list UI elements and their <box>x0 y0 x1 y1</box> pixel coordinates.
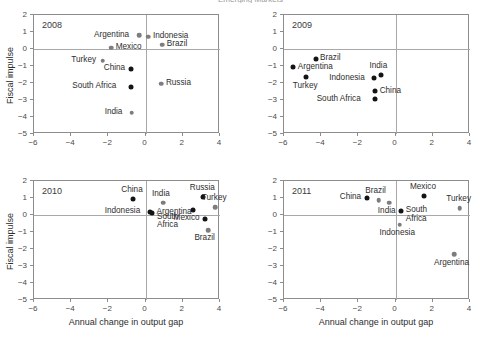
y-tick <box>280 48 283 49</box>
panel-2010: ChinaIndiaRussiaTurkeyIndonesiaArgentina… <box>33 180 219 299</box>
x-tick-label: −6 <box>278 138 287 147</box>
data-point-russia[interactable] <box>159 82 164 87</box>
point-label-india: India <box>378 207 396 216</box>
data-point-indonesia[interactable] <box>146 34 151 39</box>
panel-year-label: 2011 <box>292 186 311 196</box>
x-tick-label: −6 <box>28 138 37 147</box>
data-point-argentina[interactable] <box>291 65 296 70</box>
point-label-turkey: Turkey <box>293 82 318 91</box>
y-tick <box>280 99 283 100</box>
data-point-brazil[interactable] <box>206 228 211 233</box>
x-tick-label: 4 <box>217 138 221 147</box>
y-tick-label: −1 <box>259 61 277 70</box>
data-point-brazil[interactable] <box>160 42 165 47</box>
data-point-china[interactable] <box>364 195 369 200</box>
panel-2011: ChinaBrazilIndiaMexicoTurkeySouth Africa… <box>283 180 469 299</box>
x-tick <box>395 299 396 302</box>
vertical-zero-line <box>146 181 147 300</box>
data-point-turkey[interactable] <box>213 205 218 210</box>
point-label-india: India <box>152 190 170 199</box>
y-tick <box>30 265 33 266</box>
data-point-brazil[interactable] <box>313 56 318 61</box>
point-label-china: China <box>380 87 401 96</box>
point-label-turkey: Turkey <box>446 195 471 204</box>
x-tick-label: −4 <box>316 138 325 147</box>
data-point-india[interactable] <box>129 110 134 115</box>
point-label-brazil: Brazil <box>365 187 385 196</box>
y-tick <box>280 180 283 181</box>
point-label-mexico: Mexico <box>410 183 436 192</box>
data-point-india[interactable] <box>161 200 166 205</box>
y-tick <box>280 116 283 117</box>
y-tick-label: −2 <box>259 244 277 253</box>
y-tick <box>30 82 33 83</box>
x-tick <box>395 133 396 136</box>
x-tick-label: −4 <box>316 304 325 313</box>
data-point-china[interactable] <box>130 196 135 201</box>
y-tick <box>280 197 283 198</box>
data-point-china[interactable] <box>128 67 133 72</box>
point-label-china: China <box>340 193 361 202</box>
panel-year-label: 2008 <box>42 20 62 30</box>
point-label-indonesia: Indonesia <box>379 229 415 238</box>
y-tick <box>30 116 33 117</box>
x-tick-label: 2 <box>430 304 434 313</box>
x-tick-label: −6 <box>278 304 287 313</box>
y-tick <box>280 14 283 15</box>
point-label-china: China <box>121 186 142 195</box>
y-tick <box>30 231 33 232</box>
y-tick <box>280 82 283 83</box>
y-axis-title: Fiscal impulse <box>5 212 15 269</box>
vertical-zero-line <box>396 181 397 300</box>
y-tick-label: −2 <box>259 78 277 87</box>
data-point-mexico[interactable] <box>421 194 426 199</box>
x-tick <box>357 133 358 136</box>
point-label-brazil: Brazil <box>194 234 214 243</box>
data-point-brazil[interactable] <box>377 198 382 203</box>
data-point-mexico[interactable] <box>203 216 208 221</box>
x-tick <box>70 299 71 302</box>
y-tick <box>280 248 283 249</box>
vertical-zero-line <box>146 15 147 134</box>
data-point-argentina[interactable] <box>452 252 457 257</box>
data-point-mexico[interactable] <box>109 45 114 50</box>
x-tick-label: −6 <box>28 304 37 313</box>
y-tick <box>30 248 33 249</box>
y-tick <box>30 214 33 215</box>
data-point-indonesia[interactable] <box>397 223 402 228</box>
x-tick <box>33 133 34 136</box>
y-tick <box>30 31 33 32</box>
point-label-india: India <box>105 108 123 117</box>
data-point-indonesia[interactable] <box>372 76 377 81</box>
y-tick-label: −5 <box>259 129 277 138</box>
point-label-mexico: Mexico <box>116 43 142 52</box>
data-point-argentina[interactable] <box>150 210 155 215</box>
data-point-turkey[interactable] <box>304 75 309 80</box>
y-tick-label: −5 <box>9 129 27 138</box>
y-tick-label: −3 <box>259 95 277 104</box>
x-tick <box>182 133 183 136</box>
x-tick <box>469 133 470 136</box>
x-tick <box>219 299 220 302</box>
y-tick <box>30 180 33 181</box>
data-point-argentina[interactable] <box>137 33 142 38</box>
data-point-south-africa[interactable] <box>399 208 404 213</box>
x-tick-label: 0 <box>142 138 146 147</box>
point-label-indonesia: Indonesia <box>105 207 141 216</box>
x-tick-label: 4 <box>467 304 471 313</box>
data-point-south-africa[interactable] <box>128 84 133 89</box>
x-tick <box>432 299 433 302</box>
data-point-india[interactable] <box>378 72 383 77</box>
y-tick <box>280 231 283 232</box>
data-point-india[interactable] <box>387 200 392 205</box>
y-tick-label: 2 <box>259 10 277 19</box>
data-point-turkey[interactable] <box>457 206 462 211</box>
data-point-china[interactable] <box>373 89 378 94</box>
figure-title: Emerging Markets <box>0 0 501 3</box>
x-tick <box>357 299 358 302</box>
data-point-south-africa[interactable] <box>373 97 378 102</box>
data-point-south-africa[interactable] <box>191 207 196 212</box>
x-tick-label: 4 <box>217 304 221 313</box>
x-tick <box>432 133 433 136</box>
point-label-argentina: Argentina <box>434 259 469 268</box>
